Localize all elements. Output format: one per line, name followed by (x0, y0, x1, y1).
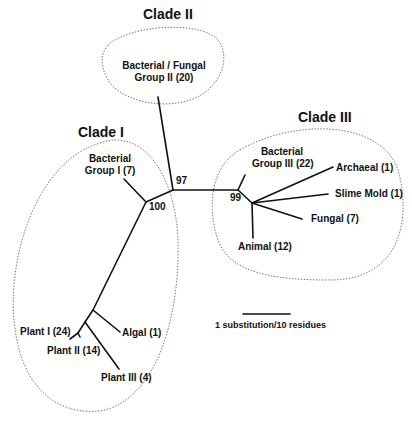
leaf-plant-iii: Plant III (4) (101, 372, 152, 384)
clade-iii-label: Clade III (298, 109, 352, 125)
scale-bar-label: 1 substitution/10 residues (215, 319, 326, 331)
leaf-line: Group II (20) (114, 72, 214, 84)
leaf-bacterial-group-iii: Bacterial Group III (22) (252, 146, 312, 170)
leaf-line: Bacterial / Fungal (114, 60, 214, 72)
leaf-line: Group I (7) (80, 165, 140, 177)
leaf-plant-i: Plant I (24) (20, 326, 71, 338)
leaf-line: Bacterial (80, 153, 140, 165)
bootstrap-100: 100 (149, 201, 166, 212)
leaf-fungal: Fungal (7) (311, 213, 359, 225)
leaf-bacterial-group-i: Bacterial Group I (7) (80, 153, 140, 177)
leaf-plant-ii: Plant II (14) (47, 345, 100, 357)
bootstrap-97: 97 (176, 175, 187, 186)
leaf-line: Bacterial (252, 146, 312, 158)
phylogenetic-tree-figure: Clade II Clade I Clade III Bacterial / F… (0, 0, 412, 421)
bootstrap-99: 99 (230, 192, 241, 203)
leaf-line: Group III (22) (252, 158, 312, 170)
leaf-slime-mold: Slime Mold (1) (335, 188, 403, 200)
leaf-algal: Algal (1) (122, 327, 161, 339)
clade-i-label: Clade I (78, 124, 124, 140)
clade-ii-label: Clade II (143, 6, 193, 22)
leaf-animal: Animal (12) (238, 241, 292, 253)
clade-i-outline (13, 140, 178, 411)
leaf-bacterial-fungal-group-ii: Bacterial / Fungal Group II (20) (114, 60, 214, 84)
leaf-archaeal: Archaeal (1) (336, 162, 393, 174)
